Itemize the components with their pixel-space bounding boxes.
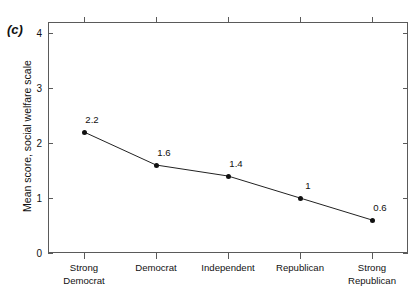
y-tick-label: 2 xyxy=(28,138,42,149)
data-point-label: 2.2 xyxy=(85,114,98,125)
data-point-label: 1.4 xyxy=(229,158,242,169)
y-tick-mark xyxy=(48,88,53,89)
x-tick-mark-top xyxy=(84,17,85,23)
data-point-marker xyxy=(154,163,159,168)
figure-panel-c: (c) Mean score, social welfare scale 012… xyxy=(0,0,416,298)
plot-area xyxy=(48,22,408,253)
data-point-marker xyxy=(370,218,375,223)
x-tick-mark xyxy=(84,253,85,259)
y-tick-mark xyxy=(48,143,53,144)
data-point-label: 0.6 xyxy=(373,202,386,213)
x-tick-mark xyxy=(156,253,157,259)
y-tick-mark-right xyxy=(403,253,408,254)
y-tick-label: 1 xyxy=(28,193,42,204)
x-tick-mark-top xyxy=(228,17,229,23)
x-tick-mark-top xyxy=(300,17,301,23)
data-point-marker xyxy=(226,174,231,179)
y-tick-mark xyxy=(48,198,53,199)
x-tick-label: Democrat xyxy=(135,261,177,274)
x-tick-mark xyxy=(228,253,229,259)
x-tick-label: Republican xyxy=(276,261,324,274)
y-tick-mark xyxy=(48,253,53,254)
y-tick-label: 3 xyxy=(28,83,42,94)
y-axis-title: Mean score, social welfare scale xyxy=(21,36,33,236)
data-point-marker xyxy=(298,196,303,201)
x-tick-label: Strong Democrat xyxy=(63,261,105,287)
y-tick-mark xyxy=(48,33,53,34)
data-point-label: 1.6 xyxy=(157,147,170,158)
y-tick-label: 4 xyxy=(28,28,42,39)
y-tick-label: 0 xyxy=(28,248,42,259)
data-point-marker xyxy=(82,130,87,135)
x-tick-mark xyxy=(372,253,373,259)
x-tick-mark-top xyxy=(156,17,157,23)
y-tick-mark-right xyxy=(403,88,408,89)
y-tick-mark-right xyxy=(403,198,408,199)
x-tick-label: Independent xyxy=(201,261,254,274)
y-tick-mark-right xyxy=(403,143,408,144)
x-tick-mark xyxy=(300,253,301,259)
x-tick-label: Strong Republican xyxy=(348,261,396,287)
y-tick-mark-right xyxy=(403,33,408,34)
data-point-label: 1 xyxy=(305,180,310,191)
panel-letter: (c) xyxy=(7,22,23,37)
x-tick-mark-top xyxy=(372,17,373,23)
